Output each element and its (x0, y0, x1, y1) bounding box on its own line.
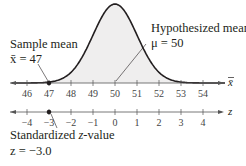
z-tick-label: 3 (179, 117, 184, 128)
z-axis: −4−3−2−101234 z (10, 105, 233, 128)
z-tick-label: 4 (201, 117, 206, 128)
hyp-mean-value: μ = 50 (151, 36, 184, 50)
axis-arrow-right-icon (218, 81, 224, 85)
z-value-title: Standardized z-value (10, 128, 115, 142)
z-value-point (47, 110, 52, 115)
xbar-tick-label: 49 (88, 88, 98, 99)
sample-mean-title: Sample mean (10, 37, 78, 51)
z-tick-label: 2 (157, 117, 162, 128)
xbar-tick-label: 52 (154, 88, 164, 99)
z-tick-label: −4 (22, 117, 33, 128)
z-tick-label: −2 (66, 117, 77, 128)
axis-arrow-right-icon (218, 110, 224, 114)
axis-arrow-left-icon (10, 81, 16, 85)
z-tick-label: −1 (88, 117, 99, 128)
xbar-tick-label: 50 (110, 88, 120, 99)
z-tick-label: 1 (135, 117, 140, 128)
z-tick-label: 0 (113, 117, 118, 128)
z-value-value: z = −3.0 (10, 144, 52, 158)
sample-mean-value: x̄ = 47 (10, 52, 42, 66)
sampling-distribution-diagram: 464748495051525354 x̄ −4−3−2−101234 z Sa… (0, 0, 246, 166)
xbar-tick-label: 53 (176, 88, 186, 99)
axis-arrow-left-icon (10, 110, 16, 114)
xbar-tick-label: 47 (44, 88, 54, 99)
xbar-tick-label: 46 (22, 88, 32, 99)
sample-mean-point (47, 81, 52, 86)
xbar-tick-label: 54 (198, 88, 208, 99)
sample-mean-leader (38, 64, 48, 81)
z-axis-label: z (227, 105, 233, 117)
xbar-tick-label: 48 (66, 88, 76, 99)
hyp-mean-title: Hypothesized mean (151, 21, 246, 35)
xbar-tick-label: 51 (132, 88, 142, 99)
